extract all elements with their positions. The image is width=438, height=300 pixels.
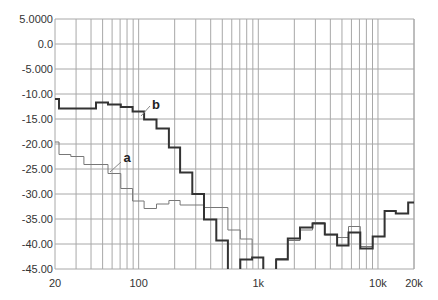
x-tick-label: 20k bbox=[405, 277, 423, 289]
y-tick-label: -25.00 bbox=[22, 163, 53, 175]
frequency-response-chart: 5.00000.0-5.000-10.00-15.00-20.00-25.00-… bbox=[0, 0, 438, 300]
y-tick-label: 5.0000 bbox=[19, 13, 53, 25]
y-tick-label: -20.00 bbox=[22, 138, 53, 150]
series-labels: ab bbox=[110, 97, 160, 172]
y-tick-label: -15.00 bbox=[22, 113, 53, 125]
series-b-line bbox=[55, 99, 414, 274]
y-axis-ticks: 5.00000.0-5.000-10.00-15.00-20.00-25.00-… bbox=[19, 13, 53, 275]
series-a-label: a bbox=[123, 150, 131, 165]
series-a-line bbox=[55, 142, 414, 274]
y-tick-label: -40.00 bbox=[22, 238, 53, 250]
x-tick-label: 10k bbox=[369, 277, 387, 289]
x-tick-label: 20 bbox=[49, 277, 61, 289]
y-tick-label: 0.0 bbox=[38, 38, 53, 50]
series-b-label: b bbox=[152, 97, 160, 112]
x-axis-ticks: 201001k10k20k bbox=[49, 277, 423, 289]
y-tick-label: -5.000 bbox=[22, 63, 53, 75]
y-tick-label: -10.00 bbox=[22, 88, 53, 100]
y-tick-label: -30.00 bbox=[22, 188, 53, 200]
y-tick-label: -35.00 bbox=[22, 213, 53, 225]
x-tick-label: 100 bbox=[129, 277, 147, 289]
x-tick-label: 1k bbox=[252, 277, 264, 289]
y-tick-label: -45.00 bbox=[22, 263, 53, 275]
series-lines bbox=[55, 99, 414, 274]
